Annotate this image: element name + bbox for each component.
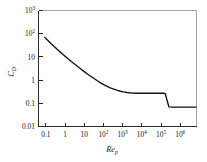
x-tick-labels: 0.1 1 10 102 103 104 105 106 (41, 129, 185, 139)
x-tick-label-4: 103 (118, 129, 128, 139)
x-axis-ticks (46, 123, 180, 127)
plot-axes (39, 11, 197, 127)
y-tick-label-2: 1 (31, 76, 35, 85)
y-axis-title: CD (7, 67, 17, 77)
x-tick-label-0: 0.1 (41, 130, 51, 139)
x-tick-label-7: 106 (175, 129, 185, 139)
x-tick-label-3: 102 (98, 129, 108, 139)
y-tick-label-3: 10 (28, 53, 36, 62)
y-tick-label-0: 0.01 (22, 122, 35, 131)
x-axis-title: Rep (105, 145, 118, 155)
drag-curve-group (44, 37, 196, 107)
drag-curve (44, 37, 196, 107)
x-tick-label-1: 1 (63, 130, 67, 139)
chart-canvas: 0.01 0.1 1 10 102 103 0.1 1 (0, 0, 207, 162)
y-tick-labels: 0.01 0.1 1 10 102 103 (22, 5, 35, 131)
y-tick-label-5: 103 (25, 5, 35, 15)
x-tick-label-2: 10 (81, 130, 89, 139)
y-tick-label-1: 0.1 (26, 99, 36, 108)
y-tick-label-4: 102 (25, 28, 35, 38)
drag-coefficient-chart: 0.01 0.1 1 10 102 103 0.1 1 (0, 0, 207, 162)
plot-frame (39, 11, 197, 127)
x-tick-label-5: 104 (137, 129, 147, 139)
x-tick-label-6: 105 (156, 129, 166, 139)
y-axis-ticks (39, 11, 43, 127)
